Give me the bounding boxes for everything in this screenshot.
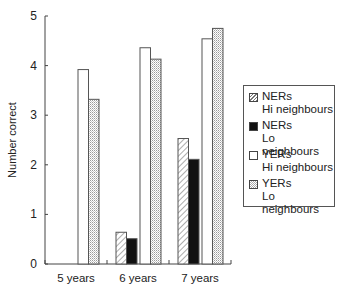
legend-label: YERsLo neighbours [262,177,334,216]
legend-label: NERsHi neighbours [262,90,333,116]
x-category-label: 5 years [57,272,95,284]
legend-item: NERsLo neighbours [249,119,334,148]
legend-label: YERsHi neighbours [262,148,333,174]
y-axis-title: Number correct [6,102,18,178]
legend-item: NERsHi neighbours [249,90,334,119]
legend-swatch-white [249,151,258,160]
legend-item: YERsHi neighbours [249,148,334,177]
bar-hatched [178,139,189,264]
y-axis: 012345 [30,9,48,271]
x-category-label: 7 years [181,272,219,284]
y-tick-label: 5 [30,9,37,23]
bar-solid-black [189,159,200,264]
bar-white [140,48,151,264]
bar-dotted [151,59,162,264]
y-tick-label: 2 [30,158,37,172]
bar-hatched [116,232,127,264]
bar-dotted [89,99,100,264]
bar-white [78,70,89,264]
y-tick-label: 3 [30,108,37,122]
y-tick-label: 4 [30,59,37,73]
legend-swatch-dotted [249,180,258,189]
x-category-label: 6 years [119,272,157,284]
bar-white [202,39,213,264]
legend-swatch-hatched [249,93,258,102]
y-tick-label: 0 [30,257,37,271]
legend-item: YERsLo neighbours [249,177,334,206]
bars [78,28,223,264]
bar-dotted [213,28,224,264]
legend-swatch-solid-black [249,122,258,131]
bar-solid-black [127,239,138,264]
y-tick-label: 1 [30,207,37,221]
legend: NERsHi neighboursNERsLo neighboursYERsHi… [243,85,335,207]
